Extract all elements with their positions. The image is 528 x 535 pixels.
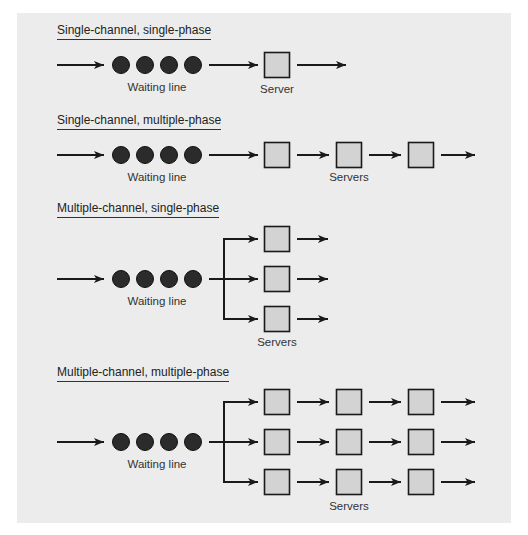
server-box-icon [265,430,290,455]
server-box-icon [337,143,362,168]
server-box-icon [265,227,290,252]
customer-circle-icon [161,271,178,288]
server-box-icon [337,470,362,495]
server-box-icon [265,470,290,495]
customer-circle-icon [185,57,202,74]
customer-circle-icon [113,271,130,288]
customer-circle-icon [161,57,178,74]
server-box-icon [337,390,362,415]
customer-circle-icon [185,434,202,451]
queue-diagram [0,0,528,535]
customer-circle-icon [185,147,202,164]
server-box-icon [265,267,290,292]
customer-circle-icon [137,57,154,74]
customer-circle-icon [185,271,202,288]
server-box-icon [409,143,434,168]
customer-circle-icon [161,434,178,451]
server-box-icon [265,307,290,332]
server-box-icon [337,430,362,455]
customer-circle-icon [161,147,178,164]
customer-circle-icon [113,147,130,164]
server-box-icon [265,143,290,168]
customer-circle-icon [113,434,130,451]
server-box-icon [409,430,434,455]
server-box-icon [409,390,434,415]
server-box-icon [265,53,290,78]
server-box-icon [409,470,434,495]
customer-circle-icon [137,271,154,288]
customer-circle-icon [137,147,154,164]
customer-circle-icon [137,434,154,451]
customer-circle-icon [113,57,130,74]
server-box-icon [265,390,290,415]
